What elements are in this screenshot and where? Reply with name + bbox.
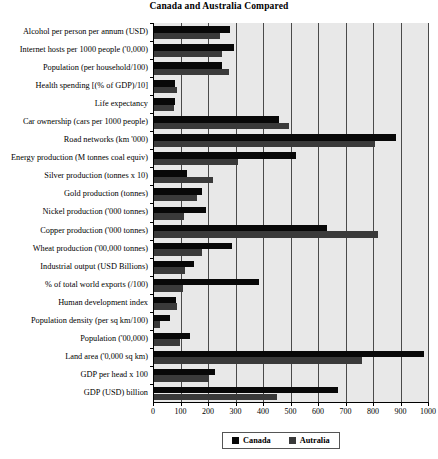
category-label: Human development index <box>58 299 148 307</box>
category-label: Population density (per sq km/100) <box>31 317 148 325</box>
y-tick-mark <box>150 312 153 313</box>
x-tick-mark <box>318 402 319 406</box>
bar-australia <box>154 339 180 345</box>
bar-canada <box>154 207 206 213</box>
bar-australia <box>154 69 229 75</box>
x-tick-mark <box>181 402 182 406</box>
category-label: Nickel production ('000 tonnes) <box>43 208 148 216</box>
y-tick-mark <box>150 185 153 186</box>
chart-row: Population (per household/100) <box>0 59 438 77</box>
category-label: Life expectancy <box>95 100 148 108</box>
bar-canada <box>154 297 176 303</box>
bar-canada <box>154 351 424 357</box>
bar-canada <box>154 98 175 104</box>
x-tick-mark <box>236 402 237 406</box>
bar-australia <box>154 213 184 219</box>
bar-australia <box>154 105 174 111</box>
y-tick-mark <box>150 95 153 96</box>
category-label: Wheat production ('00,000 tonnes) <box>33 245 148 253</box>
category-label: Industrial output (USD Billions) <box>40 263 148 271</box>
chart-row: Human development index <box>0 294 438 312</box>
category-label: Car ownership (cars per 1000 people) <box>23 118 148 126</box>
x-tick-mark <box>373 402 374 406</box>
x-tick-mark <box>291 402 292 406</box>
x-tick-mark <box>263 402 264 406</box>
bar-canada <box>154 315 170 321</box>
chart-row: Internet hosts per 1000 people ('0,000) <box>0 41 438 59</box>
legend-label: Autralia <box>300 436 330 445</box>
y-tick-mark <box>150 348 153 349</box>
bar-australia <box>154 33 220 39</box>
y-tick-mark <box>150 258 153 259</box>
bar-canada <box>154 369 215 375</box>
bar-canada <box>154 80 175 86</box>
y-tick-mark <box>150 366 153 367</box>
legend-swatch-icon <box>289 437 296 444</box>
bar-australia <box>154 141 375 147</box>
category-label: Population (per household/100) <box>43 64 148 72</box>
bar-australia <box>154 321 160 327</box>
category-label: Health spending [(% of GDP)/10] <box>36 82 148 90</box>
bar-canada <box>154 261 194 267</box>
bar-canada <box>154 243 232 249</box>
legend-entry-autralia: Autralia <box>289 436 330 445</box>
y-tick-mark <box>150 222 153 223</box>
chart-row: GDP (USD) billion <box>0 384 438 402</box>
legend-label: Canada <box>243 436 271 445</box>
bar-canada <box>154 188 202 194</box>
bar-canada <box>154 152 296 158</box>
chart-row: Road networks (km '000) <box>0 131 438 149</box>
y-tick-mark <box>150 77 153 78</box>
bar-australia <box>154 267 185 273</box>
legend-swatch-icon <box>232 437 239 444</box>
category-label: Population ('00,000) <box>80 335 148 343</box>
category-label: GDP per head x 100 <box>81 371 148 379</box>
x-tick-mark <box>401 402 402 406</box>
y-tick-mark <box>150 23 153 24</box>
category-label: % of total world exports (/100) <box>45 281 148 289</box>
bar-australia <box>154 375 209 381</box>
chart-row: % of total world exports (/100) <box>0 276 438 294</box>
chart-row: Population density (per sq km/100) <box>0 312 438 330</box>
chart-row: Life expectancy <box>0 95 438 113</box>
bar-australia <box>154 195 197 201</box>
chart-row: Wheat production ('00,000 tonnes) <box>0 240 438 258</box>
y-tick-mark <box>150 149 153 150</box>
bar-canada <box>154 387 338 393</box>
bar-canada <box>154 26 230 32</box>
chart-row: Health spending [(% of GDP)/10] <box>0 77 438 95</box>
bar-canada <box>154 62 222 68</box>
category-label: Road networks (km '000) <box>64 136 148 144</box>
y-tick-mark <box>150 131 153 132</box>
bar-australia <box>154 159 238 165</box>
chart-row: Population ('00,000) <box>0 330 438 348</box>
bar-canada <box>154 333 190 339</box>
bar-australia <box>154 123 289 129</box>
x-tick-label: 1000 <box>408 407 438 416</box>
chart-row: Copper production ('000 tonnes) <box>0 222 438 240</box>
x-tick-mark <box>208 402 209 406</box>
x-tick-mark <box>428 402 429 406</box>
chart-title: Canada and Australia Compared <box>0 1 438 11</box>
category-label: Gold production (tonnes) <box>64 190 148 198</box>
bar-australia <box>154 285 183 291</box>
y-tick-mark <box>150 384 153 385</box>
category-label: Energy production (M tonnes coal equiv) <box>11 154 148 162</box>
bar-canada <box>154 279 259 285</box>
y-tick-mark <box>150 59 153 60</box>
chart-row: Energy production (M tonnes coal equiv) <box>0 149 438 167</box>
chart-row: Gold production (tonnes) <box>0 185 438 203</box>
chart-row: Silver production (tonnes x 10) <box>0 167 438 185</box>
y-tick-mark <box>150 276 153 277</box>
x-tick-mark <box>346 402 347 406</box>
chart-legend: CanadaAutralia <box>222 432 340 449</box>
bar-australia <box>154 231 378 237</box>
category-label: Land area ('0,000 sq km) <box>65 353 148 361</box>
bar-chart: Canada and Australia Compared 0100200300… <box>0 0 438 459</box>
bar-australia <box>154 51 222 57</box>
y-tick-mark <box>150 240 153 241</box>
x-tick-mark <box>153 402 154 406</box>
bar-australia <box>154 87 177 93</box>
category-label: Internet hosts per 1000 people ('0,000) <box>20 46 148 54</box>
bar-canada <box>154 225 327 231</box>
